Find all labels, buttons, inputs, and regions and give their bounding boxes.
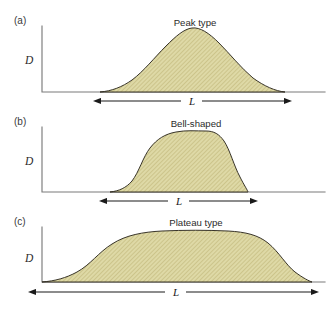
panel-b-y-axis-label: D [24,155,34,167]
panel-c-y-axis-label: D [24,252,34,264]
panel-c-width-label: L [172,286,179,298]
panel-a-width-label: L [188,95,195,107]
panel-c-label: (c) [14,216,26,227]
panel-a-y-axis-label: D [24,54,34,66]
panel-b-width-label: L [175,195,182,207]
panel-b-label: (b) [14,116,26,127]
three-curve-type-figure: (a) D Peak type L (b) D Bell-shaped L (c… [0,0,331,314]
panel-b-title: Bell-shaped [171,118,222,129]
panel-a-title: Peak type [174,17,217,28]
panel-a-label: (a) [14,15,26,26]
panel-c-title: Plateau type [169,217,222,228]
